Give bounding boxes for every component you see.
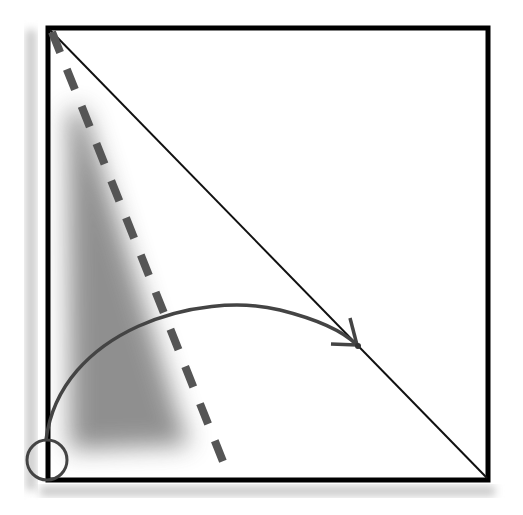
shaded-region [68, 110, 190, 450]
geometric-diagram [0, 0, 523, 515]
